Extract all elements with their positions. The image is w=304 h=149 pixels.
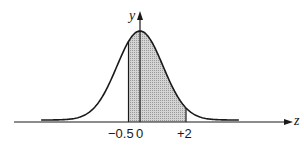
y-axis-arrow-icon bbox=[137, 11, 143, 20]
diagram-canvas bbox=[0, 0, 304, 149]
z-axis-arrow-icon bbox=[284, 119, 293, 125]
tick-label-plus-2: +2 bbox=[177, 127, 192, 140]
y-axis-label: y bbox=[129, 9, 135, 23]
tick-label-zero: 0 bbox=[136, 127, 143, 140]
normal-curve-diagram: y z −0.5 0 +2 bbox=[0, 0, 304, 149]
shaded-area bbox=[129, 31, 187, 122]
z-axis-label: z bbox=[294, 114, 299, 128]
tick-label-minus-0-5: −0.5 bbox=[108, 127, 134, 140]
